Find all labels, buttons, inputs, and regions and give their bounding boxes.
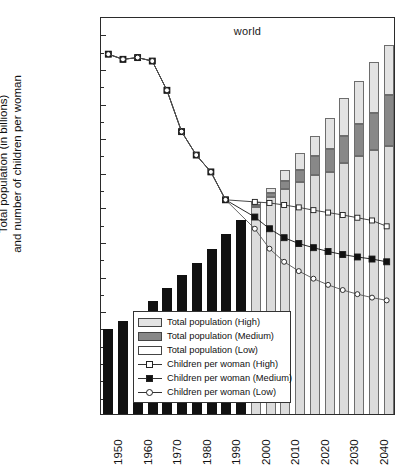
line-marker	[266, 226, 272, 232]
legend-label: Total population (High)	[167, 317, 260, 327]
line-marker	[296, 241, 302, 247]
legend-item: Total population (High)	[138, 315, 287, 329]
line-marker	[384, 259, 390, 265]
line-marker	[296, 205, 301, 210]
legend-item: Children per woman (Medium)	[138, 371, 287, 385]
line-marker	[325, 248, 331, 254]
legend-item: Total population (Low)	[138, 343, 287, 357]
line-marker	[252, 199, 257, 204]
line-marker	[267, 246, 272, 251]
line-marker	[150, 59, 155, 64]
x-tick-label: 2020	[319, 439, 331, 465]
legend-label: Total population (Medium)	[167, 331, 274, 341]
legend-item: Children per woman (High)	[138, 357, 287, 371]
x-tick-label: 1960	[142, 439, 154, 465]
line-marker	[179, 129, 184, 134]
line-marker	[326, 210, 331, 215]
x-tick-label: 1990	[230, 439, 242, 465]
line-marker	[120, 57, 125, 62]
legend-color-swatch	[138, 332, 162, 341]
legend-item: Children per woman (Low)	[138, 385, 287, 399]
line-marker	[370, 295, 375, 300]
legend-label: Children per woman (Low)	[167, 387, 276, 397]
line-marker	[282, 259, 287, 264]
line-marker	[355, 215, 360, 220]
line-marker	[252, 214, 258, 220]
line-marker	[164, 88, 169, 93]
legend-marker-icon	[146, 389, 153, 396]
y-axis-label-line1: Total population (in billions)	[0, 4, 10, 324]
line-marker	[310, 245, 316, 251]
legend-label: Children per woman (Medium)	[167, 373, 292, 383]
y-axis-label-line2: and number of children per woman	[10, 4, 24, 324]
line-marker	[384, 224, 389, 229]
legend-marker-icon	[146, 375, 153, 382]
legend-line-swatch	[138, 360, 162, 369]
legend-color-swatch	[138, 318, 162, 327]
y-axis-label: Total population (in billions) and numbe…	[0, 4, 24, 324]
line-marker	[340, 212, 345, 217]
x-tick-label: 1970	[171, 439, 183, 465]
chart-legend: Total population (High)Total population …	[133, 311, 291, 403]
line-marker	[340, 252, 346, 258]
line-marker	[311, 208, 316, 213]
legend-label: Total population (Low)	[167, 345, 258, 355]
line-marker	[296, 269, 301, 274]
line-marker	[135, 55, 140, 60]
line-marker	[281, 235, 287, 241]
legend-item: Total population (Medium)	[138, 329, 287, 343]
x-tick-label: 2000	[260, 439, 272, 465]
line-marker	[106, 52, 111, 57]
chart-figure: Total population (in billions) and numbe…	[0, 0, 416, 473]
line-marker	[384, 298, 389, 303]
line-marker	[355, 292, 360, 297]
legend-marker-icon	[146, 361, 153, 368]
line-marker	[194, 153, 199, 158]
x-tick-label: 2030	[348, 439, 360, 465]
x-tick-label: 2010	[289, 439, 301, 465]
line-marker	[326, 282, 331, 287]
legend-line-swatch	[138, 374, 162, 383]
line-marker	[267, 200, 272, 205]
line-marker	[354, 254, 360, 260]
legend-color-swatch	[138, 346, 162, 355]
line-marker	[223, 197, 228, 202]
x-tick-label: 1950	[112, 439, 124, 465]
line-path	[108, 54, 386, 226]
legend-line-swatch	[138, 388, 162, 397]
legend-label: Children per woman (High)	[167, 359, 278, 369]
line-path	[108, 54, 386, 300]
x-tick-label: 2040	[378, 439, 390, 465]
line-path	[108, 54, 386, 262]
line-marker	[340, 288, 345, 293]
line-marker	[282, 202, 287, 207]
line-marker	[208, 169, 213, 174]
line-marker	[311, 276, 316, 281]
x-tick-label: 1980	[201, 439, 213, 465]
line-marker	[252, 226, 257, 231]
line-marker	[370, 218, 375, 223]
line-marker	[369, 256, 375, 262]
